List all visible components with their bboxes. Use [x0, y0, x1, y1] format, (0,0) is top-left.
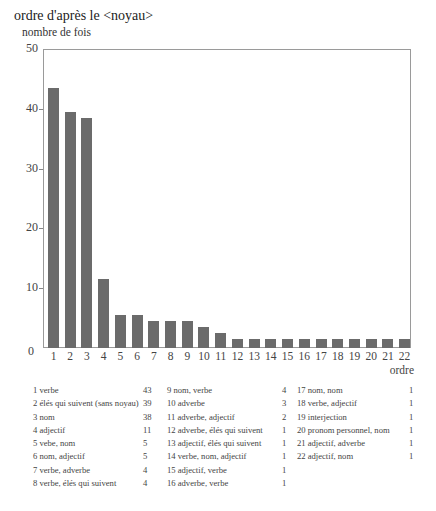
- legend-value: 1: [409, 425, 413, 435]
- x-tick-label: 12: [228, 350, 246, 362]
- x-tick-label: 13: [245, 350, 263, 362]
- x-tick-label: 7: [145, 350, 163, 362]
- legend-value: 1: [282, 465, 286, 475]
- bar-16: [299, 339, 310, 348]
- x-tick-label: 8: [162, 350, 180, 362]
- legend-value: 5: [143, 438, 147, 448]
- x-tick-label: 11: [212, 350, 230, 362]
- y-tick-mark: [39, 288, 43, 289]
- bar-3: [81, 118, 92, 348]
- y-tick-label: 30: [14, 161, 38, 176]
- x-tick-label: 22: [396, 350, 414, 362]
- legend-label: 19 interjection: [297, 412, 347, 422]
- legend-label: 7 verbe, adverbe: [33, 465, 90, 475]
- y-tick-label: 50: [14, 41, 38, 56]
- legend-value: 1: [282, 451, 286, 461]
- x-tick-label: 16: [295, 350, 313, 362]
- y-tick-label: 20: [14, 220, 38, 235]
- x-tick-label: 4: [95, 350, 113, 362]
- legend-label: 6 nom, adjectif: [33, 451, 85, 461]
- y-tick-label: 40: [14, 101, 38, 116]
- legend-label: 4 adjectif: [33, 425, 65, 435]
- legend-value: 1: [282, 425, 286, 435]
- y-tick-mark: [39, 169, 43, 170]
- legend-value: 1: [409, 398, 413, 408]
- x-tick-label: 20: [362, 350, 380, 362]
- legend-label: 5 vebe, nom: [33, 438, 75, 448]
- legend-value: 1: [409, 451, 413, 461]
- legend-value: 3: [282, 398, 286, 408]
- bar-4: [98, 279, 109, 348]
- legend-value: 39: [143, 398, 152, 408]
- legend-label: 17 nom, nom: [297, 385, 343, 395]
- legend-label: 14 verbe, nom, adjectif: [167, 451, 246, 461]
- legend-value: 1: [409, 412, 413, 422]
- bar-5: [115, 315, 126, 348]
- legend-label: 2 élés qui suivent (sans noyau): [33, 398, 139, 408]
- bar-2: [65, 112, 76, 348]
- legend-value: 4: [143, 465, 147, 475]
- x-axis-label: ordre: [390, 364, 414, 376]
- x-tick-label: 19: [345, 350, 363, 362]
- legend-label: 13 adjectif, élés qui suivent: [167, 438, 261, 448]
- bar-1: [48, 88, 59, 348]
- y-axis-label: nombre de fois: [22, 26, 91, 38]
- bar-17: [316, 339, 327, 348]
- legend-label: 9 nom, verbe: [167, 385, 212, 395]
- legend-value: 1: [282, 478, 286, 488]
- legend-value: 4: [143, 478, 147, 488]
- legend-value: 38: [143, 412, 152, 422]
- bar-6: [132, 315, 143, 348]
- y-tick-mark: [39, 228, 43, 229]
- legend-label: 3 nom: [33, 412, 55, 422]
- x-tick-label: 9: [178, 350, 196, 362]
- bar-18: [332, 339, 343, 348]
- x-tick-label: 1: [45, 350, 63, 362]
- bar-12: [232, 339, 243, 348]
- bar-14: [265, 339, 276, 348]
- x-tick-label: 10: [195, 350, 213, 362]
- legend-label: 1 verbe: [33, 385, 59, 395]
- bar-11: [215, 333, 226, 348]
- legend-label: 15 adjectif, verbe: [167, 465, 227, 475]
- bar-15: [282, 339, 293, 348]
- x-tick-label: 21: [379, 350, 397, 362]
- legend-label: 12 adverbe, élés qui suivent: [167, 425, 263, 435]
- legend-value: 1: [282, 438, 286, 448]
- legend-label: 21 adjectif, adverbe: [297, 438, 365, 448]
- legend-value: 1: [409, 385, 413, 395]
- legend-value: 11: [143, 425, 151, 435]
- bar-7: [148, 321, 159, 348]
- x-tick-label: 17: [312, 350, 330, 362]
- bar-19: [349, 339, 360, 348]
- legend-label: 10 adverbe: [167, 398, 205, 408]
- legend-label: 11 adverbe, adjectif: [167, 412, 235, 422]
- x-tick-label: 3: [78, 350, 96, 362]
- x-tick-label: 2: [61, 350, 79, 362]
- legend-value: 4: [282, 385, 286, 395]
- x-tick-label: 14: [262, 350, 280, 362]
- legend-label: 8 verbe, élés qui suivent: [33, 478, 116, 488]
- x-tick-label: 5: [111, 350, 129, 362]
- legend-value: 5: [143, 451, 147, 461]
- x-tick-label: 6: [128, 350, 146, 362]
- legend-label: 18 verbe, adjectif: [297, 398, 357, 408]
- bar-8: [165, 321, 176, 348]
- bar-21: [382, 339, 393, 348]
- legend-value: 2: [282, 412, 286, 422]
- x-tick-label: 15: [279, 350, 297, 362]
- bar-10: [198, 327, 209, 348]
- legend-label: 16 adverbe, verbe: [167, 478, 228, 488]
- legend-label: 22 adjectif, nom: [297, 451, 353, 461]
- bar-22: [399, 339, 410, 348]
- legend-value: 1: [409, 438, 413, 448]
- y-tick-label: 10: [14, 280, 38, 295]
- legend-label: 20 pronom personnel, nom: [297, 425, 390, 435]
- chart-title: ordre d'après le <noyau>: [14, 8, 153, 24]
- y-tick-label: 0: [10, 344, 34, 359]
- y-tick-mark: [39, 109, 43, 110]
- x-tick-label: 18: [329, 350, 347, 362]
- bar-13: [249, 339, 260, 348]
- bar-20: [366, 339, 377, 348]
- bar-9: [182, 321, 193, 348]
